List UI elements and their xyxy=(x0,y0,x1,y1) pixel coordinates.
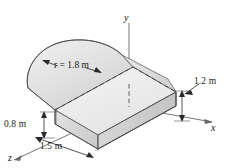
solid-body xyxy=(27,40,176,149)
depth-label: 1.5 m xyxy=(40,141,62,151)
height-left-dimension xyxy=(40,108,57,139)
y-axis-label: y xyxy=(124,12,128,23)
figure-canvas xyxy=(0,0,226,168)
height-right-label: 1.2 m xyxy=(194,76,216,86)
x-axis-label: x xyxy=(211,122,215,133)
z-axis-label: z xyxy=(8,152,12,163)
engineering-figure: r = 1.8 m 0.8 m 1.5 m 1.2 m y x z xyxy=(0,0,226,168)
radius-label: r = 1.8 m xyxy=(54,60,89,70)
z-axis-arrowhead xyxy=(14,155,22,161)
height-right-dimension xyxy=(174,84,199,122)
height-left-label: 0.8 m xyxy=(4,119,26,129)
